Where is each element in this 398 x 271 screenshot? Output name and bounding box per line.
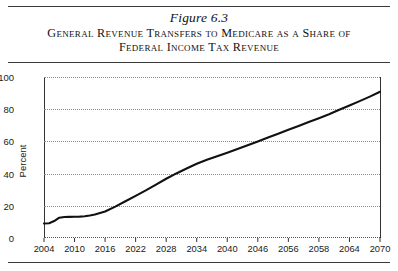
figure-title-line-2: Federal Income Tax Revenue (8, 40, 390, 54)
top-rule (8, 6, 390, 7)
x-axis-tick-label: 2064 (339, 244, 360, 254)
figure-title-block: Figure 6.3 General Revenue Transfers to … (8, 10, 390, 54)
plot-frame (44, 77, 380, 238)
x-axis-tick-label: 2070 (370, 244, 391, 254)
x-axis-tick-label: 2040 (217, 244, 238, 254)
y-axis-spine-right (380, 77, 381, 238)
title-divider-rule (8, 62, 390, 63)
x-axis-tick-label: 2046 (247, 244, 268, 254)
figure-number: Figure 6.3 (8, 10, 390, 25)
y-axis-tick-label: 80 (0, 104, 14, 115)
y-axis-tick-label: 60 (0, 136, 14, 147)
x-axis-tick-label: 2058 (309, 244, 330, 254)
figure-title-line-1: General Revenue Transfers to Medicare as… (47, 26, 350, 40)
y-axis-tick-label: 40 (0, 168, 14, 179)
x-axis-tick-label: 2056 (278, 244, 299, 254)
x-axis-tick-label: 2022 (125, 244, 146, 254)
y-axis-tick-label: 20 (0, 200, 14, 211)
y-axis-tick-label: 100 (0, 72, 14, 83)
y-axis-label: Percent (17, 145, 28, 178)
page-title: General Revenue Transfers to Medicare as… (8, 26, 390, 54)
x-axis-tick-label: 2010 (64, 244, 85, 254)
x-axis-ticks-group: 2004201020162022202820342040204620562058… (0, 244, 398, 260)
chart-area: Percent 020406080100 2004201020162022202… (0, 66, 398, 256)
bottom-rule (8, 262, 390, 263)
y-axis-tick-label: 0 (0, 233, 14, 244)
x-axis-tick-label: 2016 (95, 244, 116, 254)
data-series-line (44, 77, 380, 238)
x-axis-tick-label: 2004 (34, 244, 55, 254)
figure-container: Figure 6.3 General Revenue Transfers to … (0, 0, 398, 271)
x-axis-tick-label: 2028 (156, 244, 177, 254)
x-axis-tick-label: 2034 (186, 244, 207, 254)
